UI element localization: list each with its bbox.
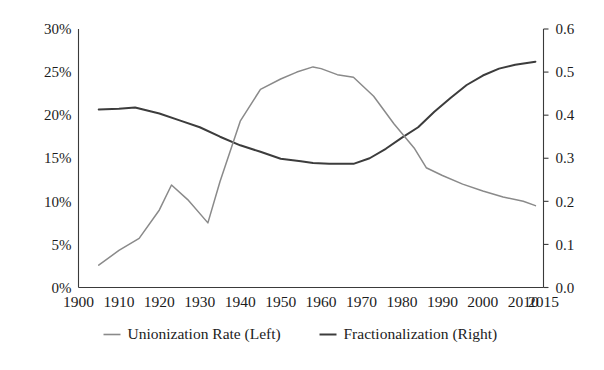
x-axis-tick-label: 1980 <box>386 293 417 310</box>
legend-item[interactable]: Fractionalization (Right) <box>320 325 498 343</box>
x-axis-tick-label: 1970 <box>346 293 377 310</box>
x-axis-tick-label: 1920 <box>144 293 175 310</box>
chart-figure: 0%5%10%15%20%25%30% 19001910192019301940… <box>0 0 604 370</box>
legend-item-label: Unionization Rate (Left) <box>128 325 281 343</box>
left-axis-tick-label: 10% <box>44 194 72 210</box>
chart-background <box>0 0 604 370</box>
legend-item-label: Fractionalization (Right) <box>344 325 498 343</box>
right-axis-tick-label: 0.2 <box>556 194 575 210</box>
x-axis-tick-label: 1910 <box>103 293 134 310</box>
x-axis-tick-label: 1900 <box>63 293 94 310</box>
x-axis-tick-label: 1930 <box>184 293 215 310</box>
left-axis-tick-label: 25% <box>44 64 72 80</box>
x-axis-tick-label: 1990 <box>427 293 458 310</box>
left-axis-tick-label: 5% <box>52 237 72 253</box>
right-axis-tick-label: 0.5 <box>556 64 575 80</box>
right-axis-tick-label: 0.3 <box>556 150 575 166</box>
x-axis-tick-label: 1940 <box>225 293 256 310</box>
right-axis-tick-label: 0.0 <box>556 280 575 296</box>
x-axis-tick-label: 1950 <box>265 293 296 310</box>
x-axis-tick-label: 1960 <box>306 293 337 310</box>
right-axis-tick-label: 0.1 <box>556 237 575 253</box>
legend-item[interactable]: Unionization Rate (Left) <box>104 325 281 343</box>
x-axis-tick-label: 2000 <box>467 293 498 310</box>
left-axis-tick-label: 30% <box>44 21 72 37</box>
right-axis-tick-label: 0.6 <box>556 21 575 37</box>
right-axis-tick-label: 0.4 <box>556 107 575 123</box>
left-axis-tick-label: 20% <box>44 107 72 123</box>
chart-plot-area: 0%5%10%15%20%25%30% 19001910192019301940… <box>0 0 604 370</box>
left-axis-tick-label: 15% <box>44 150 72 166</box>
